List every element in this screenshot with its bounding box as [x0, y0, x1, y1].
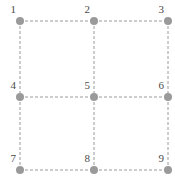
node-label-1: 1 [11, 4, 18, 16]
node-label-6: 6 [159, 80, 166, 92]
graph-node[interactable] [16, 17, 24, 25]
graph-node[interactable] [164, 93, 172, 101]
graph-node[interactable] [16, 166, 24, 174]
graph-node[interactable] [16, 93, 24, 101]
graph-node[interactable] [164, 166, 172, 174]
node-label-5: 5 [85, 80, 92, 92]
graph-node[interactable] [90, 93, 98, 101]
graph-node[interactable] [90, 17, 98, 25]
node-label-4: 4 [11, 80, 18, 92]
node-label-3: 3 [159, 4, 166, 16]
node-label-2: 2 [85, 4, 92, 16]
grid-graph-figure: 123456789 [0, 0, 175, 180]
node-label-7: 7 [11, 153, 18, 165]
node-label-8: 8 [85, 153, 92, 165]
nodes-layer [16, 17, 172, 174]
graph-node[interactable] [164, 17, 172, 25]
graph-node[interactable] [90, 166, 98, 174]
node-label-9: 9 [159, 153, 166, 165]
